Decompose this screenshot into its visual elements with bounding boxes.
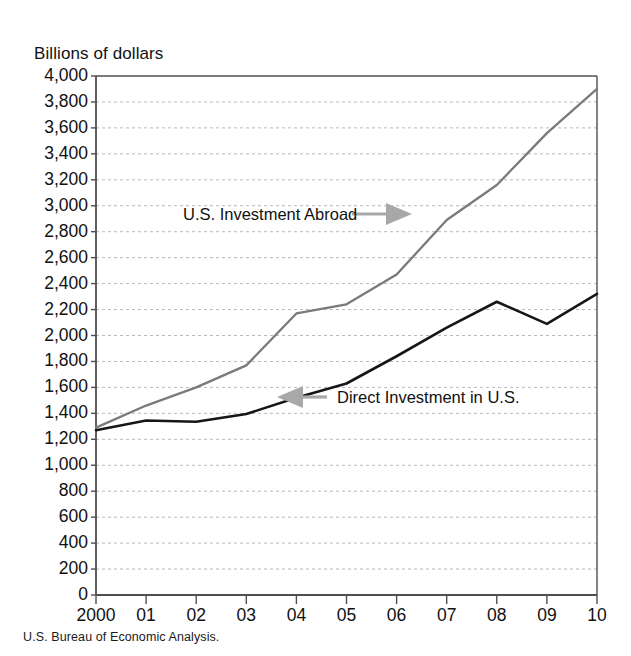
annotation-direct-investment-in-us: Direct Investment in U.S.: [337, 389, 519, 406]
arrow-head: [386, 203, 412, 225]
source-note: U.S. Bureau of Economic Analysis.: [23, 630, 219, 644]
investment-line-chart: Billions of dollars 4,0003,8003,6003,400…: [0, 0, 631, 656]
series-line-direct-investment-in-us: [96, 294, 597, 430]
arrow-head: [277, 386, 303, 408]
axis-frame: [96, 76, 597, 595]
arrow-right-us-investment-abroad: [352, 203, 412, 225]
gridlines: [96, 102, 597, 569]
plot-area: [0, 0, 631, 656]
annotation-us-investment-abroad: U.S. Investment Abroad: [183, 206, 357, 223]
data-series: [96, 89, 597, 430]
arrow-left-direct-investment-in-us: [277, 386, 327, 408]
axis-ticks: [91, 76, 597, 604]
series-line-us-investment-abroad: [96, 89, 597, 428]
